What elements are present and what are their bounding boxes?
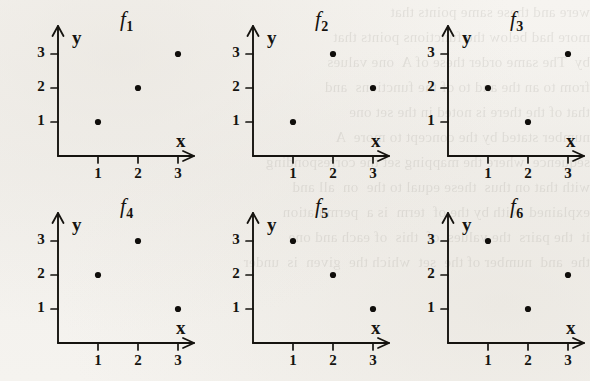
x-tick-label: 2 xyxy=(131,352,145,369)
data-point xyxy=(95,119,101,125)
data-point xyxy=(135,85,141,91)
x-tick-label: 1 xyxy=(286,352,300,369)
x-axis-label: x xyxy=(566,130,576,152)
data-point xyxy=(330,51,336,57)
x-tick-label: 1 xyxy=(91,165,105,182)
x-tick-label: 1 xyxy=(286,165,300,182)
y-axis-label: y xyxy=(267,214,277,236)
y-tick-label: 1 xyxy=(229,112,243,129)
y-tick-label: 3 xyxy=(424,44,438,61)
function-label-subscript: 6 xyxy=(516,206,523,221)
function-label-subscript: 2 xyxy=(321,19,328,34)
function-label-f5: f5 xyxy=(315,194,328,219)
y-tick-label: 1 xyxy=(229,299,243,316)
y-tick-label: 3 xyxy=(424,231,438,248)
figure-panel-grid: yxf1123123yxf2123123yxf3123123yxf4123123… xyxy=(0,0,590,381)
y-tick-label: 1 xyxy=(424,112,438,129)
x-tick-label: 3 xyxy=(171,352,185,369)
function-label-base: f xyxy=(510,7,516,31)
function-label-base: f xyxy=(315,194,321,218)
x-axis-label: x xyxy=(371,130,381,152)
data-point xyxy=(95,272,101,278)
chart-panel-f1: yxf1123123 xyxy=(8,4,204,194)
data-point xyxy=(485,85,491,91)
function-label-subscript: 3 xyxy=(516,19,523,34)
function-label-f1: f1 xyxy=(120,7,133,32)
y-tick-label: 2 xyxy=(229,78,243,95)
data-point xyxy=(290,238,296,244)
x-tick-label: 1 xyxy=(91,352,105,369)
chart-panel-f2: yxf2123123 xyxy=(203,4,399,194)
function-label-subscript: 4 xyxy=(126,206,133,221)
x-axis-label: x xyxy=(566,317,576,339)
data-point xyxy=(175,51,181,57)
data-point xyxy=(525,306,531,312)
function-label-base: f xyxy=(120,194,126,218)
y-tick-label: 3 xyxy=(229,231,243,248)
function-label-f6: f6 xyxy=(510,194,523,219)
x-tick-label: 3 xyxy=(561,352,575,369)
data-point xyxy=(330,272,336,278)
function-label-f3: f3 xyxy=(510,7,523,32)
data-point xyxy=(525,119,531,125)
y-tick-label: 3 xyxy=(34,44,48,61)
y-axis-label: y xyxy=(72,27,82,49)
x-tick-label: 2 xyxy=(326,352,340,369)
y-tick-label: 2 xyxy=(34,78,48,95)
x-axis-label: x xyxy=(176,130,186,152)
chart-panel-f3: yxf3123123 xyxy=(398,4,590,194)
y-tick-label: 1 xyxy=(34,112,48,129)
x-tick-label: 1 xyxy=(481,165,495,182)
data-point xyxy=(135,238,141,244)
y-axis-label: y xyxy=(72,214,82,236)
y-axis-label: y xyxy=(267,27,277,49)
y-tick-label: 3 xyxy=(229,44,243,61)
x-axis-label: x xyxy=(176,317,186,339)
function-label-subscript: 5 xyxy=(321,206,328,221)
data-point xyxy=(565,51,571,57)
function-label-base: f xyxy=(315,7,321,31)
y-tick-label: 2 xyxy=(424,265,438,282)
chart-panel-f4: yxf4123123 xyxy=(8,191,204,381)
x-tick-label: 1 xyxy=(481,352,495,369)
x-tick-label: 3 xyxy=(171,165,185,182)
x-tick-label: 2 xyxy=(326,165,340,182)
y-tick-label: 2 xyxy=(34,265,48,282)
y-tick-label: 2 xyxy=(424,78,438,95)
data-point xyxy=(485,238,491,244)
x-tick-label: 2 xyxy=(521,352,535,369)
data-point xyxy=(290,119,296,125)
y-tick-label: 3 xyxy=(34,231,48,248)
x-tick-label: 2 xyxy=(131,165,145,182)
function-label-f4: f4 xyxy=(120,194,133,219)
data-point xyxy=(175,306,181,312)
x-tick-label: 3 xyxy=(366,352,380,369)
chart-panel-f6: yxf6123123 xyxy=(398,191,590,381)
data-point xyxy=(370,85,376,91)
x-tick-label: 2 xyxy=(521,165,535,182)
y-axis-label: y xyxy=(462,214,472,236)
y-tick-label: 2 xyxy=(229,265,243,282)
function-label-subscript: 1 xyxy=(126,19,133,34)
chart-panel-f5: yxf5123123 xyxy=(203,191,399,381)
x-tick-label: 3 xyxy=(366,165,380,182)
data-point xyxy=(565,272,571,278)
y-tick-label: 1 xyxy=(424,299,438,316)
data-point xyxy=(370,306,376,312)
function-label-base: f xyxy=(120,7,126,31)
y-tick-label: 1 xyxy=(34,299,48,316)
function-label-f2: f2 xyxy=(315,7,328,32)
x-tick-label: 3 xyxy=(561,165,575,182)
scanned-page-background: were and these same points that more had… xyxy=(0,0,590,381)
function-label-base: f xyxy=(510,194,516,218)
y-axis-label: y xyxy=(462,27,472,49)
x-axis-label: x xyxy=(371,317,381,339)
